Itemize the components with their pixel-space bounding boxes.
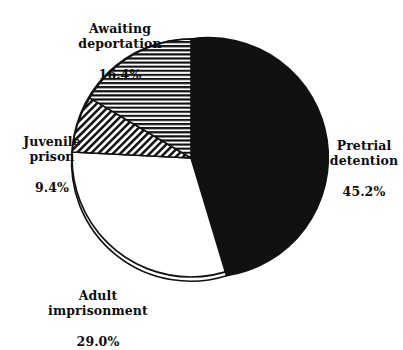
pie-label-pretrial-detention-name: Pretrial detention: [312, 138, 403, 169]
pie-label-awaiting-deportation-name: Awaiting deportation: [44, 21, 196, 52]
pie-label-awaiting-deportation: Awaiting deportation 16.4%: [44, 5, 196, 98]
pie-label-pretrial-detention-value: 45.2%: [312, 184, 403, 200]
pie-label-awaiting-deportation-value: 16.4%: [44, 67, 196, 83]
pie-label-pretrial-detention: Pretrial detention 45.2%: [312, 122, 403, 215]
pie-label-adult-imprisonment: Adult imprisonment 29.0%: [20, 272, 176, 350]
pie-label-adult-imprisonment-value: 29.0%: [20, 334, 176, 350]
pie-label-juvenile-prison-name: Juvenile prison: [0, 134, 106, 165]
pie-label-adult-imprisonment-name: Adult imprisonment: [20, 288, 176, 319]
pie-label-juvenile-prison-value: 9.4%: [0, 180, 106, 196]
pie-label-juvenile-prison: Juvenile prison 9.4%: [0, 118, 106, 211]
